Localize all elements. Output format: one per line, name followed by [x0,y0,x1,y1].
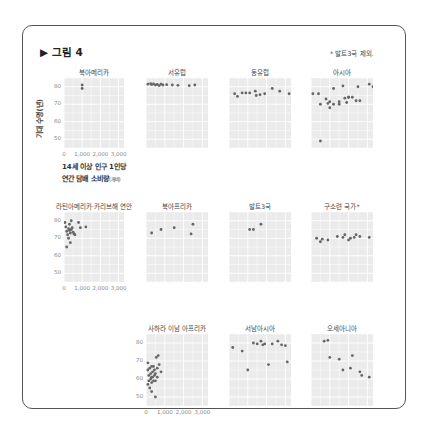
data-point [81,84,84,87]
data-point [241,350,244,353]
data-point [255,94,258,97]
y-tick-label: 70 [129,357,143,363]
data-point [64,225,67,228]
data-point [231,346,234,349]
data-point [65,246,68,249]
data-point [358,370,361,373]
data-point [146,383,149,386]
data-point [65,230,68,233]
data-point [84,225,87,228]
data-point [192,223,195,226]
y-tick-label: 50 [129,393,143,399]
data-point [343,97,346,100]
x-axis-label-line1: 14세 이상 인구 1인당 [62,161,126,173]
y-tick-label: 60 [47,118,61,124]
x-tick-label: 2,000 [176,409,192,415]
data-point [150,232,153,235]
x-tick-label: 1,000 [74,285,90,291]
data-point [162,84,165,87]
data-point [260,223,263,226]
data-point [372,85,373,88]
y-tick-label: 80 [47,217,61,223]
data-point [332,87,335,90]
y-tick-label: 80 [47,83,61,89]
data-point [315,237,318,240]
data-point [327,239,330,242]
facet-panel [229,334,291,406]
x-tick-label: 1,000 [157,409,173,415]
x-axis-label: 14세 이상 인구 1인당 연간 담배 소비량(개비) [62,161,126,186]
data-point [254,90,257,93]
data-point [343,233,346,236]
x-axis-label-unit: (개비) [109,177,121,182]
figure-note: * 발트3국 제외. [330,48,374,58]
data-point [69,241,72,244]
data-point [77,221,80,224]
data-point [246,369,249,372]
data-point [160,370,163,373]
data-point [259,93,262,96]
data-point [280,343,283,346]
facet-panel [311,334,373,406]
data-point [152,365,155,368]
data-point [328,356,331,359]
data-point [338,103,341,106]
data-point [148,387,151,390]
x-tick-label: 1,000 [74,151,90,157]
data-point [358,99,361,102]
data-point [276,340,279,343]
facet-panel [64,212,124,282]
data-point [271,87,274,90]
x-axis-label-line2: 연간 담배 소비량(개비) [62,173,126,186]
data-point [368,83,371,86]
data-point [317,92,320,95]
data-point [69,232,72,235]
x-tick-label: 2,000 [92,151,108,157]
data-point [177,84,180,87]
data-point [171,84,174,87]
data-point [338,100,341,103]
y-tick-label: 50 [47,135,61,141]
data-point [345,101,348,104]
data-point [357,85,360,88]
data-point [252,228,255,231]
figure-title: ▶ 그림 4 [40,44,83,59]
data-point [68,223,71,226]
facet-panel [311,212,373,282]
data-point [355,233,358,236]
data-point [360,374,363,377]
data-point [154,396,157,399]
data-point [245,91,248,94]
data-point [342,84,345,87]
data-point [288,92,291,95]
facet-panel [229,78,291,148]
data-point [336,235,339,238]
y-tick-label: 60 [47,252,61,258]
x-tick-label: 3,000 [111,285,127,291]
data-point [349,367,352,370]
data-point [64,221,66,224]
data-point [157,354,160,357]
y-tick-label: 70 [47,234,61,240]
data-point [158,363,161,366]
data-point [71,226,74,229]
data-point [342,369,345,372]
data-point [66,233,69,236]
data-point [358,235,361,238]
data-point [248,228,251,231]
data-point [328,100,331,103]
y-tick-label: 70 [47,100,61,106]
data-point [193,84,196,87]
facet-panel [146,334,208,406]
data-point [319,103,322,106]
data-point [311,92,314,95]
x-tick-label: 2,000 [92,285,108,291]
data-point [368,236,371,239]
y-axis-label: 기대 수명(년) [34,99,44,138]
data-point [173,226,176,229]
data-point [146,83,149,86]
data-point [351,96,354,99]
data-point [154,372,157,375]
data-point [153,369,156,372]
data-point [286,361,289,364]
